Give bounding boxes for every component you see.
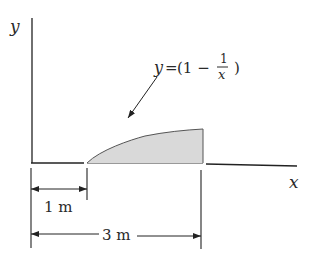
- svg-text:): ): [234, 59, 240, 77]
- dim-3m-label: 3 m: [102, 226, 131, 244]
- shaded-area: [87, 129, 203, 163]
- leader-arrow: [128, 77, 157, 118]
- y-axis-label: y: [9, 16, 20, 36]
- svg-text:1: 1: [220, 52, 228, 66]
- svg-text:=: =: [165, 59, 178, 77]
- svg-text:(1 −: (1 −: [177, 59, 210, 77]
- area-diagram: y x y = (1 − 1 x ) 1 m 3 m: [0, 0, 318, 260]
- x-axis-right: [206, 164, 297, 166]
- dim-1m-label: 1 m: [44, 198, 73, 216]
- svg-text:x: x: [218, 67, 226, 82]
- equation-label: y = (1 − 1 x ): [153, 52, 240, 82]
- svg-text:y: y: [153, 58, 164, 77]
- x-axis-label: x: [289, 172, 299, 192]
